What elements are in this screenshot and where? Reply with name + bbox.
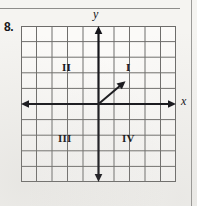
quadrant-label-ii: II	[62, 61, 71, 73]
coordinate-plane-svg	[21, 26, 176, 182]
quadrant-label-iii: III	[58, 132, 71, 144]
axis-label-y: y	[93, 7, 98, 22]
axis-label-x: x	[181, 94, 186, 109]
quadrant-label-i: I	[126, 61, 130, 73]
quadrant-label-iv: IV	[122, 132, 135, 144]
page-top-rule	[0, 8, 180, 9]
ray-from-origin	[99, 81, 126, 104]
page-right-rule	[191, 0, 192, 206]
problem-number: 8.	[4, 20, 13, 34]
coordinate-plane-figure: y x II I III IV	[21, 26, 176, 182]
